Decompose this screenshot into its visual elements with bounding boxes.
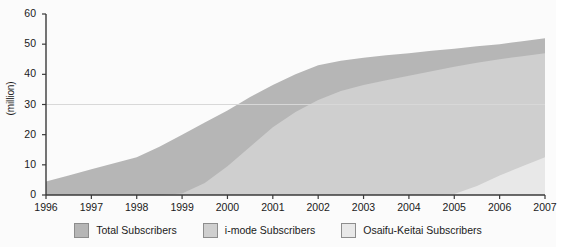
plot-area: (million) 0102030405060 1996199719981999… — [0, 0, 556, 212]
x-tick-label-2002: 2002 — [295, 202, 341, 213]
stacked-area-plot — [0, 0, 556, 212]
x-tick-label-2001: 2001 — [250, 202, 296, 213]
chart-legend: Total Subscribersi-mode SubscribersOsaif… — [0, 219, 556, 241]
x-tick-label-1998: 1998 — [114, 202, 160, 213]
area-series-group — [46, 38, 545, 195]
x-tick-label-1997: 1997 — [68, 202, 114, 213]
legend-swatch-icon — [74, 223, 89, 238]
legend-item-imode[interactable]: i-mode Subscribers — [203, 223, 315, 238]
x-tick-label-2004: 2004 — [386, 202, 432, 213]
x-tick-label-2007: 2007 — [522, 202, 561, 213]
legend-label: i-mode Subscribers — [225, 224, 315, 236]
x-tick-label-1996: 1996 — [23, 202, 69, 213]
y-tick-label-20: 20 — [10, 129, 36, 140]
legend-item-osaifu[interactable]: Osaifu-Keitai Subscribers — [341, 223, 481, 238]
legend-item-total[interactable]: Total Subscribers — [74, 223, 177, 238]
y-tick-label-50: 50 — [10, 38, 36, 49]
x-tick-label-2006: 2006 — [477, 202, 523, 213]
x-tick-label-2005: 2005 — [431, 202, 477, 213]
legend-swatch-icon — [203, 223, 218, 238]
x-tick-label-1999: 1999 — [159, 202, 205, 213]
legend-swatch-icon — [341, 223, 356, 238]
y-tick-label-0: 0 — [10, 189, 36, 200]
y-tick-label-60: 60 — [10, 8, 36, 19]
x-tick-label-2003: 2003 — [341, 202, 387, 213]
legend-label: Total Subscribers — [96, 224, 177, 236]
y-tick-label-10: 10 — [10, 159, 36, 170]
x-tick-label-2000: 2000 — [204, 202, 250, 213]
y-tick-label-40: 40 — [10, 68, 36, 79]
y-tick-label-30: 30 — [10, 99, 36, 110]
legend-label: Osaifu-Keitai Subscribers — [363, 224, 481, 236]
